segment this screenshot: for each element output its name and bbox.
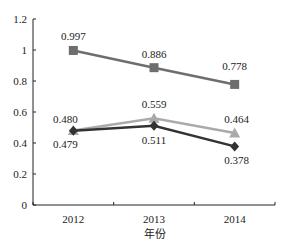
diamond-marker xyxy=(230,141,239,151)
data-label: 0.511 xyxy=(142,134,166,146)
data-label: 0.997 xyxy=(61,30,86,42)
square-marker xyxy=(230,80,239,89)
square-marker xyxy=(150,63,159,72)
data-label: 0.480 xyxy=(53,113,78,125)
y-tick-label: 1.2 xyxy=(13,13,27,25)
line-chart: 00.20.40.60.811.2201220132014 0.9970.886… xyxy=(0,0,285,245)
y-tick-label: 0.8 xyxy=(13,75,27,87)
y-tick-label: 0.6 xyxy=(13,106,27,118)
data-label: 0.559 xyxy=(142,98,167,110)
y-tick-label: 1 xyxy=(22,44,28,56)
x-tick-label: 2014 xyxy=(224,213,247,225)
y-tick-label: 0 xyxy=(22,199,28,211)
x-tick-label: 2012 xyxy=(62,213,84,225)
data-label: 0.778 xyxy=(222,60,247,72)
data-label: 0.886 xyxy=(142,48,167,60)
data-label: 0.479 xyxy=(53,138,78,150)
data-label: 0.464 xyxy=(224,113,249,125)
y-tick-label: 0.4 xyxy=(13,137,27,149)
x-tick-label: 2013 xyxy=(143,213,166,225)
x-axis-title: 年份 xyxy=(144,227,166,241)
data-labels: 0.9970.8860.7780.4800.5590.4640.4790.511… xyxy=(53,30,250,166)
y-tick-label: 0.2 xyxy=(13,168,27,180)
square-marker xyxy=(69,46,78,55)
data-label: 0.378 xyxy=(224,154,249,166)
